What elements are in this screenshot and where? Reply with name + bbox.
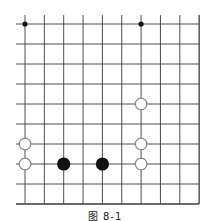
go-board (0, 0, 210, 210)
figure-caption: 图 8-1 (0, 211, 210, 221)
board-grid (16, 15, 199, 204)
black-stone (96, 157, 109, 170)
star-point (139, 21, 144, 26)
white-stone (135, 158, 147, 170)
white-stone (135, 98, 147, 110)
white-stone (19, 138, 31, 150)
star-point (22, 21, 27, 26)
white-stone (135, 138, 147, 150)
black-stone (57, 157, 70, 170)
white-stone (19, 158, 31, 170)
